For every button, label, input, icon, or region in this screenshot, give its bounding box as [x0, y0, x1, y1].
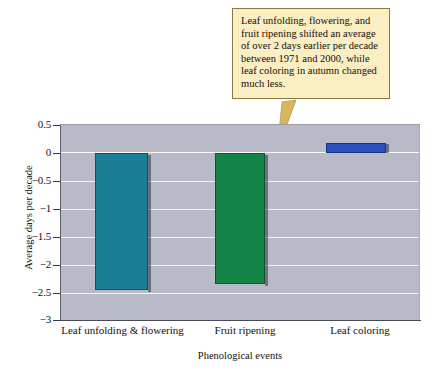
- plot-area: [60, 125, 420, 320]
- y-tick-neg3: [53, 320, 60, 321]
- y-tick-neg2-5: [53, 293, 60, 294]
- bar-shadow: [386, 144, 389, 153]
- x-axis-line: [59, 320, 421, 321]
- bar-fill: [215, 153, 265, 284]
- phenology-bar-chart-figure: Leaf unfolding, flowering, and fruit rip…: [0, 0, 436, 379]
- callout-text: Leaf unfolding, flowering, and fruit rip…: [241, 15, 378, 89]
- bar-fruit-ripening: [215, 153, 265, 284]
- x-category-label-leaf-coloring: Leaf coloring: [305, 324, 415, 337]
- plot-top-edge: [60, 124, 420, 125]
- bar-shadow: [265, 155, 268, 286]
- bar-leaf-unfolding-flowering: [95, 153, 148, 290]
- y-tick-neg2: [53, 265, 60, 266]
- y-axis-title: Average days per decade: [23, 128, 34, 308]
- y-tick-neg1: [53, 209, 60, 210]
- y-tick-neg0-5: [53, 181, 60, 182]
- x-category-label-fruit-ripening: Fruit ripening: [190, 324, 300, 337]
- y-tick-0-5: [53, 125, 60, 126]
- y-axis-line: [60, 125, 61, 321]
- x-category-label-leaf-unfolding-flowering: Leaf unfolding & flowering: [60, 324, 185, 337]
- y-tick-neg1-5: [53, 237, 60, 238]
- y-tick-label-neg3: −3: [0, 314, 51, 325]
- bar-fill: [326, 143, 386, 153]
- gridline-neg2-5: [60, 293, 420, 294]
- chart-annotation-callout: Leaf unfolding, flowering, and fruit rip…: [232, 8, 390, 99]
- plot-right-edge: [419, 125, 420, 321]
- bar-fill: [95, 153, 148, 290]
- bar-shadow: [148, 155, 151, 292]
- y-tick-0: [53, 153, 60, 154]
- bar-leaf-coloring: [326, 143, 386, 153]
- x-axis-title: Phenological events: [60, 350, 420, 361]
